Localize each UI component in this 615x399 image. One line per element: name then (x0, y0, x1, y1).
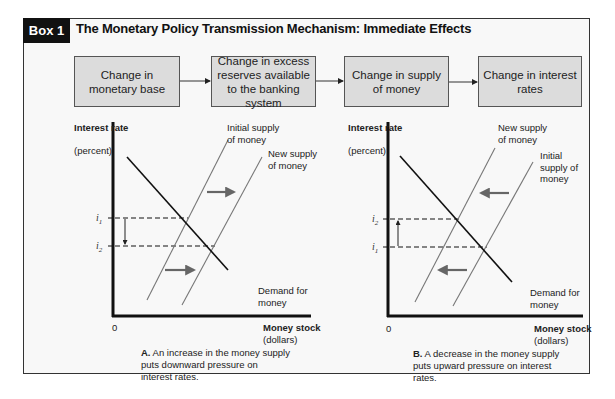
panel-a-demand-line (127, 157, 228, 270)
panel-b-demand-label: Demand for money (530, 287, 582, 310)
panel-a-x-label: Money stock (263, 322, 321, 334)
flow-connector-arrows (180, 81, 477, 82)
panel-a-x-unit: (dollars) (263, 334, 297, 346)
panel-b-upper-rate-label: i2 (372, 213, 378, 227)
panel-a-y-unit: (percent) (74, 145, 112, 157)
panel-a-lower-rate-label: i2 (96, 240, 102, 254)
panel-b-initial-supply-line (453, 162, 533, 306)
panel-b-x-label: Money stock (534, 323, 592, 335)
panel-a-y-label: Interest rate (74, 122, 128, 134)
panel-a-new-supply-label: New supply of money (268, 148, 323, 171)
diagram-graphics (0, 0, 615, 399)
panel-a-initial-supply-line (147, 140, 228, 300)
panel-b-caption: B. A decrease in the money supply puts u… (413, 348, 563, 384)
panel-b-y-unit: (percent) (348, 145, 386, 157)
panel-b-lower-rate-label: i1 (372, 241, 378, 255)
panel-b-y-label: Interest rate (348, 122, 402, 134)
panel-a-upper-rate-label: i1 (96, 212, 102, 226)
panel-b-origin: 0 (386, 323, 391, 335)
panel-b-new-supply-line (415, 148, 495, 302)
panel-b-new-supply-label: New supply of money (498, 122, 548, 145)
panel-a-caption: A. An increase in the money supply puts … (141, 347, 291, 383)
panel-a-initial-supply-label: Initial supply of money (227, 122, 287, 145)
panel-a-demand-label: Demand for money (258, 285, 310, 308)
panel-b-initial-supply-label: Initial supply of money (540, 150, 590, 185)
panel-b-x-unit: (dollars) (534, 335, 568, 347)
panel-a-origin: 0 (112, 322, 117, 334)
